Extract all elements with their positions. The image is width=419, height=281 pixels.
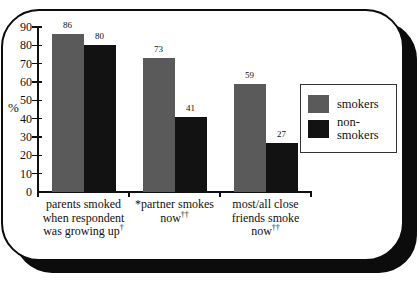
y-tick [32, 26, 42, 28]
x-tick [219, 192, 221, 197]
y-tick-label: 60 [8, 76, 32, 88]
bar-non-smokers-2 [266, 143, 298, 193]
y-tick [32, 45, 42, 47]
y-tick [32, 155, 42, 157]
bar-value-label: 86 [52, 21, 84, 30]
y-tick-label: 40 [8, 113, 32, 125]
category-label-0: parents smokedwhen respondentwas growing… [36, 198, 131, 239]
bar-value-label: 27 [266, 130, 298, 139]
category-label-1: *partner smokesnow†† [127, 198, 222, 225]
y-tick [32, 118, 42, 120]
x-tick [128, 192, 130, 197]
y-tick-label: 0 [8, 186, 32, 198]
y-tick [32, 100, 42, 102]
legend-item-0: smokers [308, 95, 396, 113]
legend-item-1: non-smokers [308, 116, 396, 142]
bar-smokers-1 [143, 58, 175, 192]
screenshot-stage: % 0102030405060708090868073415927parents… [0, 0, 419, 281]
bar-non-smokers-1 [175, 117, 207, 192]
legend-swatch-non-smokers [308, 120, 329, 138]
y-tick-label: 70 [8, 58, 32, 70]
bar-value-label: 41 [175, 104, 207, 113]
bar-value-label: 59 [234, 71, 266, 80]
legend-swatch-smokers [308, 95, 329, 113]
legend-label: non-smokers [337, 116, 396, 142]
y-tick-label: 20 [8, 149, 32, 161]
bar-smokers-2 [234, 84, 266, 192]
legend: smokersnon-smokers [300, 84, 397, 153]
legend-rows: smokersnon-smokers [308, 95, 396, 142]
bar-smokers-0 [52, 34, 84, 192]
y-tick-label: 80 [8, 39, 32, 51]
y-tick [32, 136, 42, 138]
y-axis [37, 27, 39, 192]
y-tick-label: 30 [8, 131, 32, 143]
bar-non-smokers-0 [84, 45, 116, 192]
x-tick [37, 192, 39, 197]
x-tick [310, 192, 312, 197]
y-tick [32, 81, 42, 83]
category-label-2: most/all closefriends smokenow†† [218, 198, 313, 239]
y-tick [32, 173, 42, 175]
y-tick-label: 90 [8, 21, 32, 33]
bar-value-label: 73 [143, 45, 175, 54]
y-tick-label: 10 [8, 168, 32, 180]
y-tick [32, 63, 42, 65]
legend-label: smokers [337, 98, 379, 111]
y-tick-label: 50 [8, 94, 32, 106]
bar-value-label: 80 [84, 32, 116, 41]
